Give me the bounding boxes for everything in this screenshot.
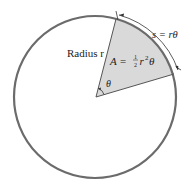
circle — [14, 16, 176, 178]
arc-length-label: s = rθ — [152, 29, 178, 40]
svg-text:A =: A = — [109, 55, 127, 67]
svg-text:θ: θ — [149, 55, 155, 67]
svg-text:2: 2 — [134, 62, 137, 68]
radius-label: Radius r — [67, 47, 104, 59]
svg-text:r: r — [140, 55, 145, 67]
sector-diagram: Radius r A = 1 2 r 2 θ s = rθ θ — [0, 0, 190, 188]
angle-label: θ — [106, 78, 111, 89]
svg-text:1: 1 — [134, 54, 137, 60]
